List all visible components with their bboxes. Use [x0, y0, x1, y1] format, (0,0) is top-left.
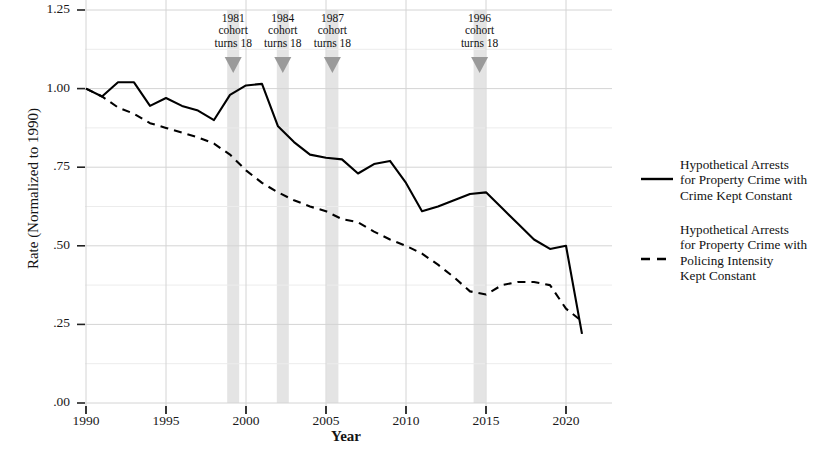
cohort-annotation-a1996: 1996cohortturns 18: [449, 12, 511, 49]
x-tick-label: 2000: [218, 413, 274, 429]
annotation-line: turns 18: [449, 37, 511, 49]
x-tick-label: 1995: [138, 413, 194, 429]
y-tick-label: .50: [24, 237, 70, 253]
x-tick-label: 2020: [538, 413, 594, 429]
y-tick-label: .25: [24, 315, 70, 331]
x-tick-label: 1990: [58, 413, 114, 429]
legend-label-line: for Property Crime with: [680, 172, 830, 187]
x-tick-label: 2015: [458, 413, 514, 429]
annotation-line: cohort: [301, 24, 363, 36]
x-tick-label: 2010: [378, 413, 434, 429]
annotation-line: cohort: [449, 24, 511, 36]
legend-label-line: Hypothetical Arrests: [680, 157, 830, 172]
legend-entry-1: Hypothetical Arrestsfor Property Crime w…: [680, 222, 830, 284]
annotation-line: turns 18: [301, 37, 363, 49]
y-tick-label: 1.25: [24, 1, 70, 17]
cohort-annotation-a1987: 1987cohortturns 18: [301, 12, 363, 49]
y-tick-label: 1.00: [24, 80, 70, 96]
annotation-line: 1987: [301, 12, 363, 24]
legend-label-line: for Property Crime with: [680, 237, 830, 252]
x-tick-label: 2005: [298, 413, 354, 429]
legend-label-line: Kept Constant: [680, 268, 830, 283]
legend-entry-0: Hypothetical Arrestsfor Property Crime w…: [680, 157, 830, 203]
y-tick-label: .75: [24, 158, 70, 174]
legend-label-line: Policing Intensity: [680, 253, 830, 268]
chart-figure: Rate (Normalized to 1990) Year .00.25.50…: [0, 0, 833, 453]
legend-swatch-solid-line: [640, 171, 674, 186]
legend-swatch-dashed-line: [640, 251, 674, 266]
annotation-line: 1996: [449, 12, 511, 24]
legend-label-line: Hypothetical Arrests: [680, 222, 830, 237]
y-tick-label: .00: [24, 394, 70, 410]
legend-label-line: Crime Kept Constant: [680, 188, 830, 203]
